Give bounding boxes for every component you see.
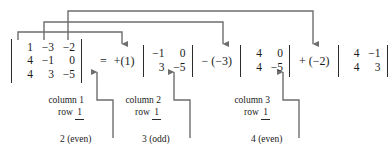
cell-r1c2: 0	[265, 47, 286, 61]
term3-index-caption: column 3 row 1	[198, 95, 270, 120]
cell-r2c2: −5	[265, 61, 286, 75]
equals-sign: =	[96, 54, 111, 69]
column-value: 2	[156, 95, 161, 105]
term3-minor-matrix: 4 −1 4 3	[342, 47, 384, 74]
table-row: 4 0	[244, 47, 286, 61]
cell-r1c3: −2	[57, 41, 78, 55]
cell-r1c1: 1	[15, 41, 36, 55]
term1-minor-matrix: −1 0 3 −5	[147, 47, 189, 74]
term2-row-line: row 1	[89, 107, 161, 120]
cell-r2c2: −5	[168, 61, 189, 75]
cell-r1c2: −3	[36, 41, 57, 55]
table-row: 4 −1 0	[15, 54, 78, 68]
term2-column-line: column 2	[89, 95, 161, 107]
cell-r2c2: −1	[36, 54, 57, 68]
row-label: row	[135, 107, 150, 117]
term1-minor-determinant: −1 0 3 −5	[143, 45, 193, 77]
column-label: column	[48, 95, 77, 105]
table-row: 3 −5	[147, 61, 189, 75]
column-value: 3	[265, 95, 270, 105]
cell-r1c2: −1	[363, 47, 384, 61]
cell-r2c1: 4	[244, 61, 265, 75]
column-label: column	[234, 95, 263, 105]
row-label: row	[58, 107, 73, 117]
term2-parity-sum: 3 (odd)	[142, 134, 170, 144]
table-row: 4 3	[342, 61, 384, 75]
source-matrix: 1 −3 −2 4 −1 0 4 3 −5	[15, 41, 78, 82]
row-label: row	[244, 107, 259, 117]
term2-minor-determinant: 4 0 4 −5	[240, 45, 290, 77]
cell-r1c1: 4	[244, 47, 265, 61]
term1-column-line: column 1	[12, 95, 84, 107]
table-row: 4 3 −5	[15, 68, 78, 82]
term3-column-line: column 3	[198, 95, 270, 107]
table-row: 4 −1	[342, 47, 384, 61]
cell-r2c1: 3	[147, 61, 168, 75]
cell-r1c1: 4	[342, 47, 363, 61]
cell-r3c3: −5	[57, 68, 78, 82]
column-value: 1	[79, 95, 84, 105]
cell-r3c2: 3	[36, 68, 57, 82]
row-value: 1	[261, 107, 270, 120]
cell-r1c2: 0	[168, 47, 189, 61]
expansion-expression: 1 −3 −2 4 −1 0 4 3 −5 = +(1)	[0, 38, 373, 84]
term3-minor-determinant: 4 −1 4 3	[338, 45, 388, 77]
row-value: 1	[152, 107, 161, 120]
cell-r2c1: 4	[15, 54, 36, 68]
cell-r2c2: 3	[363, 61, 384, 75]
term1-index-caption: column 1 row 1	[12, 95, 84, 120]
term2-minor-matrix: 4 0 4 −5	[244, 47, 286, 74]
cell-r2c3: 0	[57, 54, 78, 68]
term1-parity-sum: 2 (even)	[60, 134, 91, 144]
cell-r1c1: −1	[147, 47, 168, 61]
term2-sign-coefficient: − (−3)	[199, 54, 236, 69]
term2-index-caption: column 2 row 1	[89, 95, 161, 120]
term1-row-line: row 1	[12, 107, 84, 120]
column-label: column	[125, 95, 154, 105]
table-row: 1 −3 −2	[15, 41, 78, 55]
term3-row-line: row 1	[198, 107, 270, 120]
row-value: 1	[75, 107, 84, 120]
term3-sign-coefficient: + (−2)	[296, 54, 333, 69]
term3-parity-sum: 4 (even)	[251, 134, 282, 144]
cell-r2c1: 4	[342, 61, 363, 75]
table-row: −1 0	[147, 47, 189, 61]
term1-sign-coefficient: +(1)	[111, 54, 138, 69]
source-determinant: 1 −3 −2 4 −1 0 4 3 −5	[11, 39, 82, 83]
table-row: 4 −5	[244, 61, 286, 75]
cell-r3c1: 4	[15, 68, 36, 82]
